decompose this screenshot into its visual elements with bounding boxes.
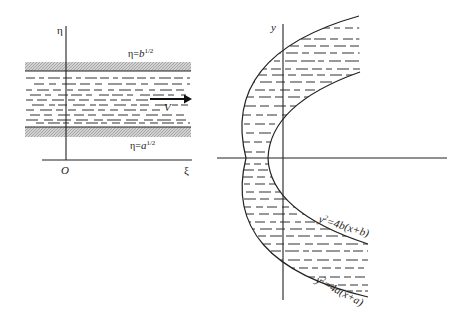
origin-label: O [61, 164, 69, 176]
parabola-fluid-dashes [230, 28, 372, 291]
figure: V η O ξ η=b1/2 η=a1/2 [0, 0, 471, 324]
eta-axis-label: η [57, 24, 63, 36]
velocity-label: V [164, 101, 172, 113]
velocity-arrow [150, 95, 192, 104]
xi-axis-label: ξ [184, 164, 189, 177]
outer-parabola [242, 16, 368, 297]
lower-wall-hatch [25, 127, 191, 137]
lower-wall-label: η=a1/2 [130, 139, 156, 151]
y-axis-label: y [270, 21, 276, 33]
upper-wall-hatch [25, 62, 191, 71]
channel-diagram: V η O ξ η=b1/2 η=a1/2 [25, 24, 192, 177]
parabola-diagram: y y2=4b(x+b) y2=4a(x+a) [217, 16, 447, 309]
upper-wall-label: η=b1/2 [128, 47, 154, 59]
